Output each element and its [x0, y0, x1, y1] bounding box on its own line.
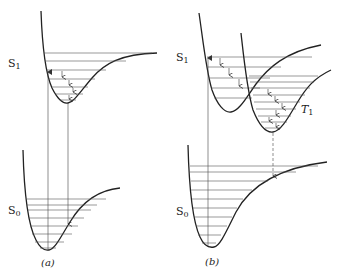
s0-potential-curve-b — [188, 145, 327, 247]
caption-b: (b) — [205, 256, 219, 267]
s0-vibrational-levels-b — [190, 166, 318, 243]
t1-potential-curve — [241, 33, 331, 132]
label-s0-b: S0 — [176, 205, 189, 219]
caption-a: (a) — [41, 257, 55, 268]
s1-potential-curve-b — [199, 13, 321, 112]
s1-vibrational-levels-b — [207, 57, 312, 98]
s1-relaxation-arrows-b — [220, 58, 239, 86]
s1-vibrational-levels — [44, 53, 152, 100]
label-t1: T1 — [301, 103, 313, 117]
panel-a: S1 S0 (a) — [8, 11, 157, 268]
label-s0-a: S0 — [8, 204, 21, 218]
label-s1-a: S1 — [8, 57, 21, 71]
t1-vibrational-levels — [249, 76, 318, 128]
s1-potential-curve — [41, 11, 157, 103]
s0-vibrational-levels — [27, 199, 106, 248]
panel-b: S1 T1 S0 (b) — [176, 13, 331, 267]
energy-level-diagram: S1 S0 (a) — [0, 0, 341, 278]
label-s1-b: S1 — [176, 51, 189, 65]
s0-potential-curve — [23, 150, 120, 250]
vibrational-relaxation-arrows — [62, 71, 73, 99]
